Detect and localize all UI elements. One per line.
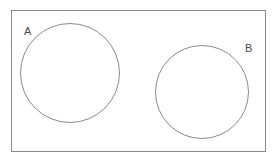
set-label-b: B (245, 43, 253, 54)
set-label-a: A (24, 26, 32, 37)
set-circle-b (156, 46, 249, 139)
universal-set-rectangle (12, 11, 266, 152)
set-circle-a (21, 24, 120, 123)
venn-diagram-canvas: A B (0, 0, 279, 164)
venn-diagram-svg (0, 0, 279, 164)
